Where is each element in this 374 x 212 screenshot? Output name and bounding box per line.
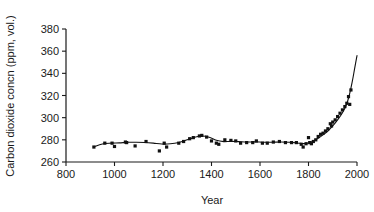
x-axis-title: Year: [201, 194, 224, 206]
data-point-marker: [234, 139, 237, 142]
data-point-marker: [278, 140, 281, 143]
data-point-marker: [290, 141, 293, 144]
data-point-marker: [200, 134, 203, 137]
y-tick-label: 380: [41, 23, 59, 35]
y-tick-label: 260: [41, 156, 59, 168]
data-point-marker: [110, 142, 113, 145]
data-point-marker: [345, 102, 348, 105]
data-point-marker: [217, 143, 220, 146]
data-point-marker: [205, 135, 208, 138]
x-tick-label: 800: [57, 168, 75, 180]
data-point-marker: [304, 142, 307, 145]
data-point-marker: [302, 145, 305, 148]
data-point-marker: [229, 139, 232, 142]
data-point-marker: [307, 136, 310, 139]
co2-concentration-chart: 260280300320340360380 800100012001400160…: [0, 0, 374, 212]
x-tick-label: 1200: [151, 168, 175, 180]
data-point-marker: [326, 127, 329, 130]
data-point-marker: [255, 139, 258, 142]
y-axis-title: Carbon dioxide concn (ppm, vol.): [4, 15, 16, 176]
x-tick-label: 1400: [199, 168, 223, 180]
data-point-marker: [134, 144, 137, 147]
data-point-marker: [272, 140, 275, 143]
data-point-marker: [334, 118, 337, 121]
data-point-marker: [295, 141, 298, 144]
data-point-marker: [349, 88, 352, 91]
data-point-marker: [347, 95, 350, 98]
data-point-marker: [188, 137, 191, 140]
y-tick-label: 300: [41, 112, 59, 124]
data-point-marker: [266, 142, 269, 145]
data-point-marker: [330, 124, 333, 127]
data-point-marker: [338, 112, 341, 115]
data-point-marker: [314, 138, 317, 141]
data-point-marker: [223, 138, 226, 141]
data-point-marker: [210, 139, 213, 142]
x-tick-label: 2000: [345, 168, 369, 180]
y-tick-label: 360: [41, 45, 59, 57]
data-point-marker: [251, 141, 254, 144]
y-tick-label: 280: [41, 134, 59, 146]
data-point-marker: [284, 141, 287, 144]
data-point-marker: [92, 145, 95, 148]
data-point-marker: [163, 142, 166, 145]
x-tick-label: 1600: [248, 168, 272, 180]
data-point-marker: [103, 142, 106, 145]
data-point-marker: [165, 145, 168, 148]
data-point-marker: [158, 149, 161, 152]
data-point-marker: [144, 140, 147, 143]
data-point-marker: [343, 105, 346, 108]
data-point-marker: [177, 142, 180, 145]
y-tick-label: 320: [41, 90, 59, 102]
data-point-marker: [300, 143, 303, 146]
chart-figure: 260280300320340360380 800100012001400160…: [0, 0, 374, 212]
data-point-marker: [182, 140, 185, 143]
data-point-marker: [239, 142, 242, 145]
data-point-marker: [261, 142, 264, 145]
data-point-marker: [125, 141, 128, 144]
data-point-marker: [348, 103, 351, 106]
y-tick-label: 340: [41, 67, 59, 79]
data-point-marker: [341, 108, 344, 111]
data-point-marker: [192, 136, 195, 139]
data-point-marker: [336, 115, 339, 118]
data-point-marker: [113, 145, 116, 148]
x-tick-label: 1800: [296, 168, 320, 180]
data-point-marker: [245, 141, 248, 144]
x-tick-label: 1000: [102, 168, 126, 180]
